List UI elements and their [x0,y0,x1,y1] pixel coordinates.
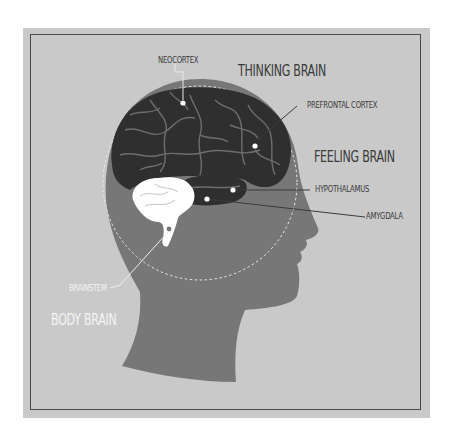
label-neocortex: NEOCORTEX [158,55,198,65]
label-hypothalamus: HYPOTHALAMUS [315,184,369,194]
brainstem-marker [166,226,172,232]
label-feeling-brain: FEELING BRAIN [314,148,395,166]
brain-illustration [0,0,453,442]
label-thinking-brain: THINKING BRAIN [238,62,326,80]
label-amygdala: AMYGDALA [366,211,403,221]
label-prefrontal-cortex: PREFRONTAL CORTEX [307,100,377,110]
label-brainstem: BRAINSTEM [69,283,107,293]
label-body-brain: BODY BRAIN [51,311,117,329]
